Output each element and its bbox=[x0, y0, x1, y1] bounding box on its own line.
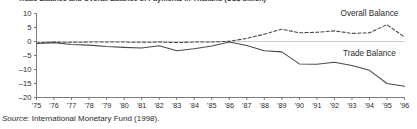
source-value: International Monetary Fund (1998). bbox=[32, 114, 160, 123]
y-tick-label-4: –10 bbox=[19, 65, 32, 74]
x-tick-label-10: '85 bbox=[207, 101, 216, 110]
x-tick-label-20: '95 bbox=[382, 101, 391, 110]
y-tick-label-6: –20 bbox=[19, 93, 32, 102]
x-tick-label-12: '87 bbox=[242, 101, 251, 110]
x-tick-label-14: '89 bbox=[277, 101, 286, 110]
series-annotations: Overall BalanceTrade Balance bbox=[341, 9, 399, 58]
y-tick-label-0: 10 bbox=[23, 9, 31, 18]
annotation-trade-balance: Trade Balance bbox=[343, 49, 396, 58]
source-label: Source: bbox=[2, 114, 30, 123]
x-tick-label-6: '81 bbox=[137, 101, 146, 110]
x-tick-label-1: '76 bbox=[49, 101, 58, 110]
x-tick-label-13: '88 bbox=[260, 101, 269, 110]
x-tick-label-16: '91 bbox=[312, 101, 321, 110]
y-tick-label-1: 5 bbox=[27, 23, 31, 32]
x-tick-label-21: '96 bbox=[400, 101, 409, 110]
line-chart: 1050–5–10–15–20 '75'76'77'78'79'80'81'82… bbox=[0, 0, 417, 129]
x-tick-label-4: '79 bbox=[102, 101, 111, 110]
x-tick-label-7: '82 bbox=[154, 101, 163, 110]
y-axis-tick-labels: 1050–5–10–15–20 bbox=[19, 9, 32, 102]
y-tick-label-3: –5 bbox=[23, 51, 31, 60]
x-tick-label-17: '92 bbox=[330, 101, 339, 110]
x-tick-label-9: '84 bbox=[190, 101, 199, 110]
x-tick-label-19: '94 bbox=[365, 101, 374, 110]
annotation-overall-balance: Overall Balance bbox=[341, 9, 399, 18]
source-note: Source: International Monetary Fund (199… bbox=[2, 114, 159, 123]
x-tick-label-3: '78 bbox=[84, 101, 93, 110]
series-line-overall-balance bbox=[37, 25, 405, 43]
y-tick-label-2: 0 bbox=[27, 37, 31, 46]
x-tick-label-8: '83 bbox=[172, 101, 181, 110]
x-tick-label-15: '90 bbox=[295, 101, 304, 110]
x-tick-label-11: '86 bbox=[225, 101, 234, 110]
figure-container: Trade Balance and Overall Balance of Pay… bbox=[0, 0, 417, 129]
x-tick-label-5: '80 bbox=[119, 101, 128, 110]
y-tick-label-5: –15 bbox=[19, 79, 32, 88]
x-axis-tick-labels: '75'76'77'78'79'80'81'82'83'84'85'86'87'… bbox=[32, 101, 409, 110]
x-tick-label-0: '75 bbox=[32, 101, 41, 110]
x-tick-label-2: '77 bbox=[67, 101, 76, 110]
x-tick-label-18: '93 bbox=[347, 101, 356, 110]
